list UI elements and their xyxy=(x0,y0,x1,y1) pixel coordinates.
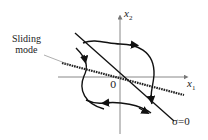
sliding-mode-line2: mode xyxy=(12,44,41,55)
origin-label: 0 xyxy=(110,80,116,90)
sliding-mode-line xyxy=(62,63,184,95)
trajectory-left xyxy=(76,48,104,109)
x1-axis-label: x1 xyxy=(187,78,195,92)
x1-subscript: 1 xyxy=(192,84,196,92)
sliding-mode-label: Sliding mode xyxy=(12,33,41,55)
switching-line-label: σ=0 xyxy=(172,116,190,127)
x2-subscript: 2 xyxy=(129,14,133,22)
annotation-pointer xyxy=(44,55,70,65)
sliding-mode-line1: Sliding xyxy=(12,33,41,44)
x2-axis-label: x2 xyxy=(124,8,132,22)
